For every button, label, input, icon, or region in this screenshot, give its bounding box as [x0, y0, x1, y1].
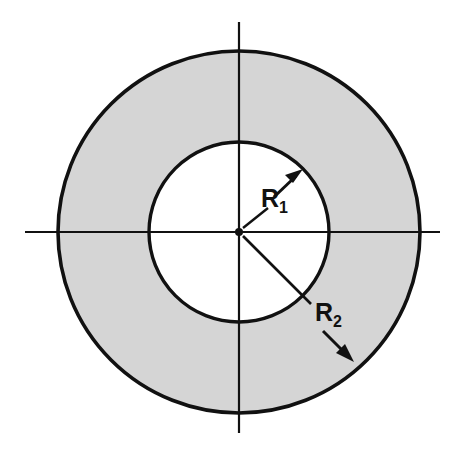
- r1-label: R: [261, 184, 279, 212]
- annulus-diagram: R 1 R 2: [0, 0, 451, 453]
- r2-label: R: [315, 298, 333, 326]
- center-point: [235, 228, 243, 236]
- r1-subscript: 1: [279, 199, 288, 216]
- r2-subscript: 2: [333, 313, 342, 330]
- annulus-svg: R 1 R 2: [0, 0, 451, 453]
